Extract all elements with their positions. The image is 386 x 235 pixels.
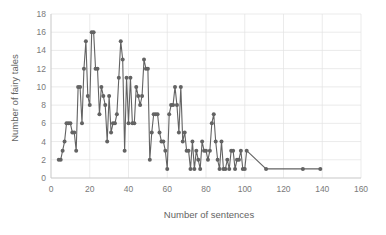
data-point-marker	[183, 130, 187, 134]
x-tick-label: 60	[163, 184, 173, 194]
data-point-marker	[134, 85, 138, 89]
data-point-marker	[156, 112, 160, 116]
data-point-marker	[177, 130, 181, 134]
chart-container: 024681012141618 020406080100120140160 Nu…	[0, 0, 386, 235]
data-point-marker	[181, 140, 185, 144]
data-point-marker	[318, 167, 322, 171]
data-point-marker	[225, 158, 229, 162]
data-point-marker	[196, 158, 200, 162]
vertical-gridlines	[51, 14, 361, 178]
data-point-marker	[63, 140, 67, 144]
data-point-marker	[167, 112, 171, 116]
data-point-marker	[227, 167, 231, 171]
data-point-marker	[142, 58, 146, 62]
y-axis-title: Number of fairy tales	[9, 54, 20, 142]
data-point-marker	[218, 167, 222, 171]
x-tick-label: 120	[276, 184, 290, 194]
data-point-marker	[59, 158, 63, 162]
data-point-marker	[107, 94, 111, 98]
data-point-marker	[150, 130, 154, 134]
data-point-marker	[210, 121, 214, 125]
x-tick-label: 40	[124, 184, 134, 194]
x-tick-label: 160	[354, 184, 368, 194]
data-point-marker	[200, 140, 204, 144]
data-point-marker	[161, 140, 165, 144]
data-point-marker	[72, 130, 76, 134]
data-point-marker	[84, 39, 88, 43]
data-point-marker	[88, 103, 92, 107]
data-point-marker	[125, 76, 129, 80]
data-point-marker	[74, 149, 78, 153]
data-point-marker	[96, 67, 100, 71]
data-point-marker	[220, 140, 224, 144]
data-point-marker	[132, 121, 136, 125]
data-point-marker	[165, 167, 169, 171]
y-tick-label: 18	[37, 9, 47, 19]
y-tick-label: 0	[41, 173, 46, 183]
data-point-marker	[115, 112, 119, 116]
series-line-group	[59, 32, 321, 169]
data-point-marker	[109, 130, 113, 134]
data-point-marker	[68, 121, 72, 125]
x-axis-tick-labels: 020406080100120140160	[49, 184, 369, 194]
series-line	[59, 32, 321, 169]
data-point-marker	[239, 149, 243, 153]
data-point-marker	[113, 121, 117, 125]
y-axis-tick-labels: 024681012141618	[37, 9, 47, 183]
y-tick-label: 2	[41, 155, 46, 165]
data-point-marker	[237, 158, 241, 162]
data-point-marker	[231, 149, 235, 153]
data-point-marker	[103, 103, 107, 107]
x-tick-label: 100	[238, 184, 252, 194]
data-point-marker	[101, 94, 105, 98]
data-point-marker	[194, 149, 198, 153]
series-marker-group	[57, 30, 323, 171]
data-point-marker	[78, 85, 82, 89]
data-point-marker	[146, 67, 150, 71]
data-point-marker	[301, 167, 305, 171]
data-point-marker	[216, 158, 220, 162]
data-point-marker	[190, 140, 194, 144]
x-tick-label: 140	[315, 184, 329, 194]
data-point-marker	[245, 149, 249, 153]
y-tick-label: 8	[41, 100, 46, 110]
data-point-marker	[171, 103, 175, 107]
data-point-marker	[138, 103, 142, 107]
x-tick-label: 80	[201, 184, 211, 194]
data-point-marker	[212, 112, 216, 116]
data-point-marker	[206, 158, 210, 162]
data-point-marker	[175, 103, 179, 107]
data-point-marker	[80, 121, 84, 125]
data-point-marker	[119, 39, 123, 43]
data-point-marker	[128, 76, 132, 80]
data-point-marker	[243, 167, 247, 171]
y-tick-label: 12	[37, 64, 47, 74]
data-point-marker	[214, 140, 218, 144]
x-axis-title: Number of sentences	[164, 209, 255, 220]
y-tick-label: 6	[41, 118, 46, 128]
data-point-marker	[208, 149, 212, 153]
data-point-marker	[189, 167, 193, 171]
y-tick-label: 16	[37, 27, 47, 37]
data-point-marker	[105, 140, 109, 144]
data-point-marker	[121, 58, 125, 62]
data-point-marker	[158, 130, 162, 134]
data-point-marker	[198, 167, 202, 171]
data-point-marker	[163, 149, 167, 153]
data-point-marker	[140, 94, 144, 98]
y-tick-label: 10	[37, 82, 47, 92]
data-point-marker	[86, 94, 90, 98]
data-point-marker	[173, 85, 177, 89]
data-point-marker	[136, 94, 140, 98]
data-point-marker	[179, 85, 183, 89]
line-chart: 024681012141618 020406080100120140160 Nu…	[0, 0, 386, 235]
x-tick-label: 0	[49, 184, 54, 194]
y-tick-label: 14	[37, 45, 47, 55]
data-point-marker	[82, 67, 86, 71]
data-point-marker	[61, 149, 65, 153]
data-point-marker	[187, 149, 191, 153]
data-point-marker	[123, 149, 127, 153]
data-point-marker	[127, 121, 131, 125]
data-point-marker	[264, 167, 268, 171]
data-point-marker	[233, 167, 237, 171]
